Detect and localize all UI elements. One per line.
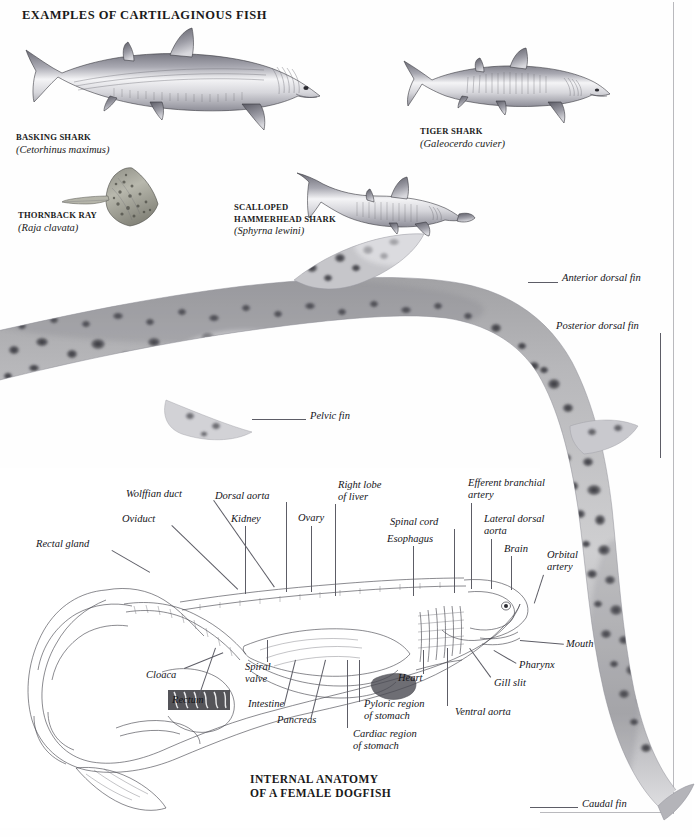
label-heart: Heart bbox=[398, 672, 423, 684]
label-oviduct: Oviduct bbox=[122, 513, 155, 525]
label-spiral-valve: Spiral valve bbox=[245, 661, 271, 685]
label-pharynx: Pharynx bbox=[519, 659, 555, 671]
label-ovary: Ovary bbox=[298, 512, 324, 524]
label-cardiac-region-of-stomach: Cardiac region of stomach bbox=[353, 728, 417, 752]
leader-esophagus bbox=[413, 546, 414, 596]
leader-pelvic-fin bbox=[252, 419, 306, 420]
specimen-scientific-name: (Sphyrna lewini) bbox=[234, 225, 336, 237]
label-wolffian-duct: Wolffian duct bbox=[126, 488, 182, 500]
label-lateral-dorsal-aorta: Lateral dorsal aorta bbox=[484, 513, 544, 537]
leader-ovary bbox=[311, 526, 312, 592]
leader-anterior-dorsal-fin bbox=[528, 282, 558, 283]
page-title: EXAMPLES OF CARTILAGINOUS FISH bbox=[22, 8, 267, 23]
label-efferent-branchial-artery: Efferent branchial artery bbox=[468, 477, 545, 501]
label-brain: Brain bbox=[504, 543, 528, 555]
leader-caudal-fin bbox=[530, 807, 578, 808]
basking-shark-illustration bbox=[14, 28, 344, 133]
tiger-shark-illustration bbox=[398, 48, 613, 126]
caption-tiger-shark: TIGER SHARK (Galeocerdo cuvier) bbox=[420, 126, 505, 149]
leader-spiral-valve bbox=[267, 640, 268, 662]
leader-brain bbox=[511, 556, 512, 590]
label-rectal-gland: Rectal gland bbox=[36, 538, 89, 550]
specimen-scientific-name: (Raja clavata) bbox=[18, 222, 97, 234]
specimen-common-name: TIGER SHARK bbox=[420, 126, 505, 138]
label-intestine: Intestine bbox=[248, 698, 284, 710]
leader-spinal-cord bbox=[454, 529, 455, 593]
leader-lateral-dorsal-aorta bbox=[491, 539, 492, 589]
label-anterior-dorsal-fin: Anterior dorsal fin bbox=[562, 272, 641, 284]
leader-efferent-branchial-artery bbox=[471, 503, 472, 589]
label-orbital-artery: Orbital artery bbox=[547, 549, 578, 573]
label-pyloric-region-of-stomach: Pyloric region of stomach bbox=[364, 698, 425, 722]
specimen-common-name: SCALLOPED HAMMERHEAD SHARK bbox=[234, 202, 336, 225]
section-title: INTERNAL ANATOMY OF A FEMALE DOGFISH bbox=[250, 772, 391, 800]
caption-thornback-ray: THORNBACK RAY (Raja clavata) bbox=[18, 210, 97, 233]
label-spinal-cord: Spinal cord bbox=[390, 516, 438, 528]
label-mouth: Mouth bbox=[566, 638, 593, 650]
label-cloaca: Cloaca bbox=[146, 669, 176, 681]
label-caudal-fin: Caudal fin bbox=[582, 798, 627, 810]
specimen-common-name: THORNBACK RAY bbox=[18, 210, 97, 222]
label-ventral-aorta: Ventral aorta bbox=[455, 706, 511, 718]
specimen-scientific-name: (Cetorhinus maximus) bbox=[16, 144, 109, 156]
leader-heart bbox=[423, 650, 424, 674]
label-posterior-dorsal-fin: Posterior dorsal fin bbox=[556, 320, 639, 332]
specimen-scientific-name: (Galeocerdo cuvier) bbox=[420, 138, 505, 150]
caption-basking-shark: BASKING SHARK (Cetorhinus maximus) bbox=[16, 132, 109, 155]
label-gill-slit: Gill slit bbox=[494, 677, 526, 689]
leader-cardiac-region-of-stomach bbox=[347, 660, 348, 728]
leader-pyloric-region-of-stomach bbox=[359, 660, 360, 702]
caption-hammerhead-shark: SCALLOPED HAMMERHEAD SHARK (Sphyrna lewi… bbox=[234, 202, 336, 237]
label-pelvic-fin: Pelvic fin bbox=[310, 410, 350, 422]
leader-right-lobe-of-liver bbox=[335, 504, 336, 596]
leader-kidney bbox=[245, 526, 246, 594]
leader-dorsal-aorta bbox=[286, 502, 287, 592]
specimen-common-name: BASKING SHARK bbox=[16, 132, 109, 144]
leader-posterior-dorsal-fin bbox=[660, 333, 661, 458]
label-esophagus: Esophagus bbox=[387, 533, 433, 545]
label-kidney: Kidney bbox=[231, 513, 261, 525]
label-dorsal-aorta: Dorsal aorta bbox=[215, 490, 270, 502]
label-right-lobe-of-liver: Right lobe of liver bbox=[338, 479, 381, 503]
leader-ventral-aorta bbox=[447, 648, 448, 706]
